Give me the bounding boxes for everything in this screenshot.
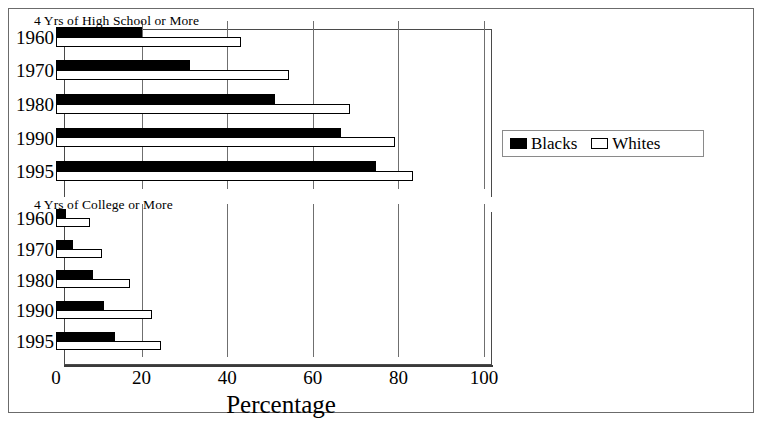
gridline-20 bbox=[142, 204, 143, 357]
legend-entry-blacks: Blacks bbox=[510, 135, 577, 152]
y-axis-label-college-1970: 1970 bbox=[2, 240, 54, 259]
x-tick-label-60: 60 bbox=[283, 367, 343, 389]
bar-whites-college-1990 bbox=[56, 310, 152, 319]
bar-whites-college-1960 bbox=[56, 218, 90, 227]
bar-blacks-college-1990 bbox=[56, 301, 104, 310]
bar-whites-high-school-1970 bbox=[56, 70, 289, 80]
legend-label-whites: Whites bbox=[612, 135, 660, 152]
y-axis-label-college-1990: 1990 bbox=[2, 301, 54, 320]
y-axis-label-college-1995: 1995 bbox=[2, 332, 54, 351]
bar-whites-high-school-1980 bbox=[56, 104, 350, 114]
x-tick-label-40: 40 bbox=[197, 367, 257, 389]
bar-whites-high-school-1995 bbox=[56, 171, 413, 181]
bar-blacks-college-1995 bbox=[56, 332, 115, 341]
x-axis-line bbox=[64, 365, 493, 367]
legend-entry-whites: Whites bbox=[591, 135, 660, 152]
bar-blacks-college-1980 bbox=[56, 270, 93, 279]
gridline-60 bbox=[313, 204, 314, 357]
bar-whites-college-1970 bbox=[56, 249, 102, 258]
bar-whites-high-school-1960 bbox=[56, 37, 241, 47]
gridline-80 bbox=[398, 204, 399, 357]
x-tick-label-0: 0 bbox=[26, 367, 86, 389]
bar-whites-college-1980 bbox=[56, 279, 130, 288]
bar-blacks-high-school-1980 bbox=[56, 94, 275, 104]
bar-blacks-high-school-1990 bbox=[56, 128, 341, 138]
chart-legend: Blacks Whites bbox=[502, 130, 704, 157]
legend-label-blacks: Blacks bbox=[531, 135, 577, 152]
legend-swatch-whites-icon bbox=[591, 138, 608, 149]
panel-title-college: 4 Yrs of College or More bbox=[34, 197, 173, 213]
y-axis-label-high-school-1970: 1970 bbox=[2, 61, 54, 80]
y-axis-label-high-school-1980: 1980 bbox=[2, 95, 54, 114]
bar-blacks-college-1970 bbox=[56, 240, 73, 249]
gridline-100 bbox=[484, 204, 485, 357]
bar-blacks-high-school-1970 bbox=[56, 60, 190, 70]
x-tick-label-80: 80 bbox=[368, 367, 428, 389]
x-tick-label-100: 100 bbox=[454, 367, 514, 389]
gridline-40 bbox=[227, 204, 228, 357]
gridline-80 bbox=[398, 21, 399, 189]
figure-frame: 1960197019801990199519601970198019901995… bbox=[8, 8, 754, 413]
gridline-100 bbox=[484, 21, 485, 189]
y-axis-label-high-school-1960: 1960 bbox=[2, 28, 54, 47]
bar-whites-high-school-1990 bbox=[56, 137, 395, 147]
panel-title-high-school: 4 Yrs of High School or More bbox=[34, 13, 199, 29]
x-axis-title: Percentage bbox=[181, 391, 381, 419]
y-axis-label-college-1980: 1980 bbox=[2, 271, 54, 290]
bar-whites-college-1995 bbox=[56, 341, 161, 350]
bar-blacks-high-school-1995 bbox=[56, 161, 376, 171]
y-axis-label-high-school-1990: 1990 bbox=[2, 129, 54, 148]
x-tick-label-20: 20 bbox=[112, 367, 172, 389]
legend-swatch-blacks-icon bbox=[510, 138, 527, 149]
y-axis-label-high-school-1995: 1995 bbox=[2, 162, 54, 181]
